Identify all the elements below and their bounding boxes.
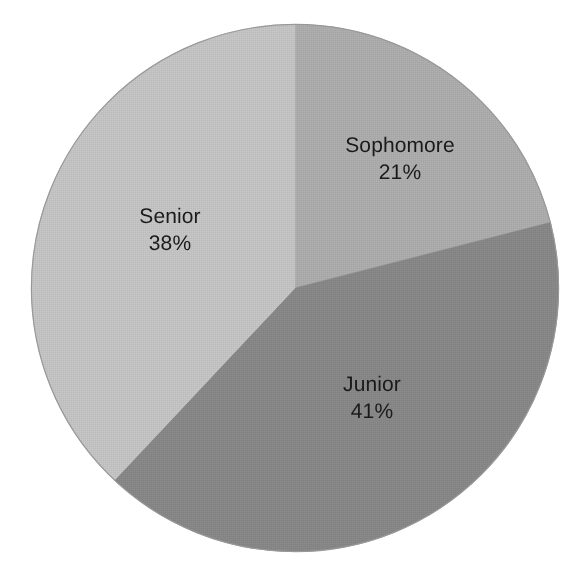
pie-label-junior-value: 41% <box>292 399 452 426</box>
pie-chart-svg <box>0 0 584 574</box>
pie-label-senior-name: Senior <box>75 204 265 231</box>
pie-label-junior: Junior 41% <box>292 372 452 426</box>
pie-label-senior: Senior 38% <box>75 204 265 258</box>
pie-chart-figure: Sophomore 21% Senior 38% Junior 41% <box>0 0 584 574</box>
pie-label-sophomore: Sophomore 21% <box>295 133 505 187</box>
pie-label-sophomore-name: Sophomore <box>295 133 505 160</box>
pie-label-junior-name: Junior <box>292 372 452 399</box>
pie-label-senior-value: 38% <box>75 231 265 258</box>
pie-label-sophomore-value: 21% <box>295 160 505 187</box>
